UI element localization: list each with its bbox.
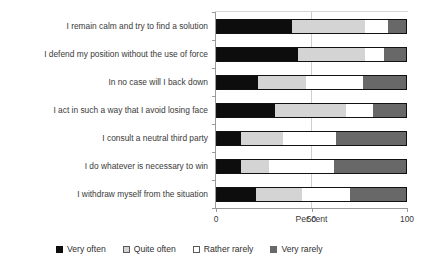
legend-item[interactable]: Very often — [56, 244, 106, 254]
bar-segment-quite-often — [275, 103, 346, 118]
legend-item[interactable]: Quite often — [123, 244, 176, 254]
bar-7 — [216, 187, 407, 202]
legend-item[interactable]: Very rarely — [270, 244, 322, 254]
bar-segment-very-rarely — [373, 103, 407, 118]
legend-swatch-icon — [193, 246, 200, 253]
bar-segment-rather-rarely — [302, 187, 350, 202]
legend-swatch-icon — [56, 246, 63, 253]
bar-segment-very-often — [216, 19, 292, 34]
plot-area: 050100 — [216, 12, 407, 208]
category-label: I remain calm and try to find a solution — [0, 21, 208, 31]
legend-item[interactable]: Rather rarely — [193, 244, 254, 254]
bar-segment-rather-rarely — [365, 47, 384, 62]
y-axis-tick — [212, 124, 216, 125]
y-axis-tick — [212, 40, 216, 41]
bar-segment-quite-often — [241, 131, 283, 146]
bar-4 — [216, 103, 407, 118]
x-axis-tick — [312, 208, 313, 212]
bar-segment-rather-rarely — [365, 19, 388, 34]
bar-segment-rather-rarely — [346, 103, 373, 118]
bar-1 — [216, 19, 407, 34]
bar-segment-rather-rarely — [269, 159, 334, 174]
x-axis-tick — [216, 208, 217, 212]
bar-segment-rather-rarely — [283, 131, 336, 146]
stacked-bar-chart: I remain calm and try to find a solution… — [0, 0, 428, 268]
bar-5 — [216, 131, 407, 146]
category-label: I defend my position without the use of … — [0, 49, 208, 59]
legend-label: Very rarely — [281, 244, 322, 254]
bar-segment-very-often — [216, 187, 256, 202]
y-axis-tick — [212, 152, 216, 153]
bar-2 — [216, 47, 407, 62]
bar-segment-very-rarely — [388, 19, 407, 34]
bar-segment-rather-rarely — [306, 75, 363, 90]
legend-swatch-icon — [270, 246, 277, 253]
y-axis-tick — [212, 96, 216, 97]
bar-6 — [216, 159, 407, 174]
bar-segment-very-rarely — [350, 187, 407, 202]
bar-segment-quite-often — [256, 187, 302, 202]
category-label: I act in such a way that I avoid losing … — [0, 105, 208, 115]
x-axis-title: Per cent — [216, 214, 407, 224]
bar-segment-very-rarely — [334, 159, 407, 174]
category-label-column: I remain calm and try to find a solution… — [0, 12, 212, 208]
category-label: I do whatever is necessary to win — [0, 161, 208, 171]
bar-segment-quite-often — [241, 159, 270, 174]
bar-segment-quite-often — [298, 47, 365, 62]
bar-segment-quite-often — [292, 19, 365, 34]
bar-segment-very-rarely — [384, 47, 407, 62]
y-axis-tick — [212, 68, 216, 69]
bar-segment-very-often — [216, 47, 298, 62]
bar-segment-very-rarely — [363, 75, 407, 90]
bar-segment-very-often — [216, 159, 241, 174]
legend-label: Quite often — [134, 244, 176, 254]
bar-3 — [216, 75, 407, 90]
chart-legend: Very oftenQuite oftenRather rarelyVery r… — [56, 242, 386, 256]
category-label: I consult a neutral third party — [0, 133, 208, 143]
bar-segment-quite-often — [258, 75, 306, 90]
y-axis-tick — [212, 12, 216, 13]
legend-swatch-icon — [123, 246, 130, 253]
x-axis-tick — [407, 208, 408, 212]
y-axis-tick — [212, 180, 216, 181]
bar-segment-very-often — [216, 75, 258, 90]
bar-segment-very-rarely — [336, 131, 407, 146]
legend-label: Very often — [67, 244, 106, 254]
bar-segment-very-often — [216, 131, 241, 146]
legend-label: Rather rarely — [204, 244, 254, 254]
category-label: In no case will I back down — [0, 77, 208, 87]
bar-segment-very-often — [216, 103, 275, 118]
category-label: I withdraw myself from the situation — [0, 189, 208, 199]
